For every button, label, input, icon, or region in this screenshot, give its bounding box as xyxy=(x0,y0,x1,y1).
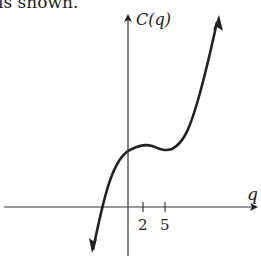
cost-curve xyxy=(93,22,217,250)
cost-function-graph: C(q) q 2 5 xyxy=(0,0,261,256)
tick-label-2: 2 xyxy=(138,216,148,234)
tick-label-5: 5 xyxy=(160,216,170,234)
curve-arrow-up xyxy=(213,15,223,31)
y-axis-label: C(q) xyxy=(136,10,171,29)
curve-arrow-down xyxy=(89,238,97,253)
x-axis-label: q xyxy=(247,184,258,204)
